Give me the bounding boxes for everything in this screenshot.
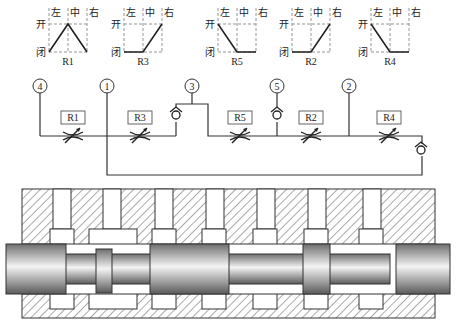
- svg-text:2: 2: [347, 81, 352, 92]
- spool-land-2: [150, 244, 229, 294]
- check-valve-port3: [170, 107, 182, 119]
- svg-text:R5: R5: [234, 112, 246, 123]
- left-label: 左: [51, 6, 61, 18]
- open-label: 开: [205, 19, 215, 30]
- valve-body: [6, 189, 450, 318]
- spool-land-3: [303, 244, 330, 294]
- chart-r2: 左中右开闭R2: [279, 6, 342, 67]
- ports: 41352: [33, 79, 356, 93]
- spool-land-1: [96, 249, 112, 293]
- chart-name: R2: [305, 56, 317, 67]
- restrictor-r1: R1: [61, 111, 85, 143]
- closed-label: 闭: [279, 46, 289, 58]
- port-2: 2: [342, 79, 356, 93]
- left-label: 左: [126, 6, 136, 18]
- svg-text:R4: R4: [383, 112, 395, 123]
- port-3: 3: [185, 79, 199, 93]
- restrictor-r3: R3: [128, 111, 152, 143]
- closed-label: 闭: [358, 46, 368, 58]
- chart-name: R3: [137, 56, 149, 67]
- svg-text:3: 3: [190, 81, 195, 92]
- closed-label: 闭: [36, 46, 46, 58]
- right-label: 右: [164, 6, 174, 18]
- chart-r5: 左中右开闭R5: [205, 6, 268, 67]
- open-label: 开: [358, 19, 368, 30]
- restrictor-r2: R2: [299, 111, 323, 143]
- center-label: 中: [392, 6, 402, 18]
- chart-name: R1: [62, 56, 74, 67]
- spool-end-left: [6, 244, 66, 294]
- left-label: 左: [294, 6, 304, 18]
- check-valve-port5: [271, 107, 283, 119]
- svg-text:R1: R1: [67, 112, 79, 123]
- right-label: 右: [258, 6, 268, 18]
- right-label: 右: [332, 6, 342, 18]
- open-label: 开: [36, 19, 46, 30]
- spool-valve-diagram: 左中右开闭R1左中右开闭R3左中右开闭R5左中右开闭R2左中右开闭R4 4135…: [0, 0, 461, 334]
- port-5: 5: [270, 79, 284, 93]
- left-label: 左: [220, 6, 230, 18]
- check-valve-return: [415, 142, 427, 154]
- closed-label: 闭: [111, 46, 121, 58]
- open-label: 开: [111, 19, 121, 30]
- chart-r3: 左中右开闭R3: [111, 6, 174, 67]
- port-1: 1: [100, 79, 114, 93]
- restrictors: R1R3R5R2R4: [61, 111, 401, 143]
- svg-text:4: 4: [38, 81, 43, 92]
- chart-name: R4: [384, 56, 396, 67]
- right-label: 右: [411, 6, 421, 18]
- right-label: 右: [89, 6, 99, 18]
- svg-text:R2: R2: [305, 112, 317, 123]
- restrictor-r5: R5: [228, 111, 252, 143]
- center-label: 中: [145, 6, 155, 18]
- port-1-line: [107, 93, 422, 175]
- svg-text:5: 5: [275, 81, 280, 92]
- open-label: 开: [279, 19, 289, 30]
- center-label: 中: [313, 6, 323, 18]
- closed-label: 闭: [205, 46, 215, 58]
- hydraulic-circuit: [40, 93, 422, 175]
- spool-end-right: [396, 244, 450, 294]
- chart-r4: 左中右开闭R4: [358, 6, 421, 67]
- center-label: 中: [70, 6, 80, 18]
- chart-r1: 左中右开闭R1: [36, 6, 99, 67]
- restrictor-r4: R4: [377, 111, 401, 143]
- port-4: 4: [33, 79, 47, 93]
- chart-name: R5: [231, 56, 243, 67]
- center-label: 中: [239, 6, 249, 18]
- svg-text:1: 1: [105, 81, 110, 92]
- valve-opening-charts: 左中右开闭R1左中右开闭R3左中右开闭R5左中右开闭R2左中右开闭R4: [36, 6, 421, 67]
- svg-text:R3: R3: [134, 112, 146, 123]
- left-label: 左: [373, 6, 383, 18]
